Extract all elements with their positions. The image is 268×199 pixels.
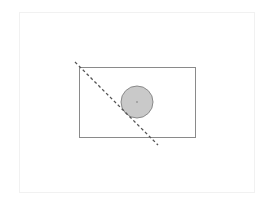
geometry-figure	[0, 0, 268, 199]
diagram-canvas	[0, 0, 268, 199]
circle-center-point	[136, 101, 138, 103]
